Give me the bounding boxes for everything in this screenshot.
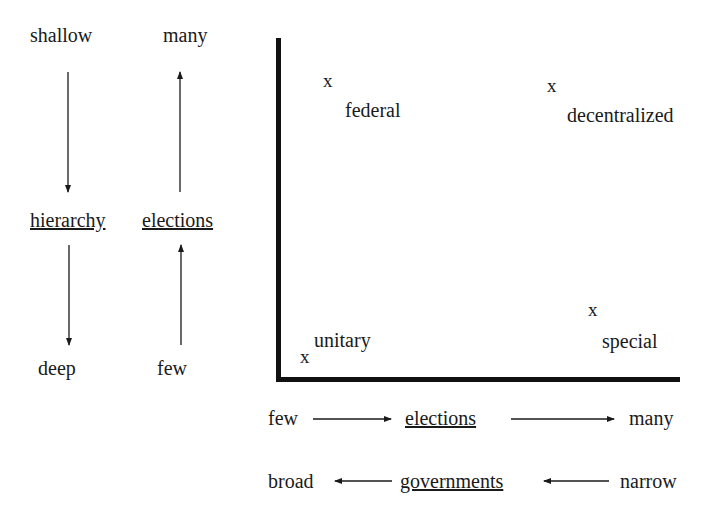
point-label: decentralized: [567, 104, 674, 126]
x-marker-icon: x: [323, 70, 333, 91]
elections-row: few elections many: [268, 407, 673, 430]
hierarchy-axis-label: hierarchy: [30, 209, 106, 232]
point-label: federal: [345, 99, 401, 121]
governments-row-center-label: governments: [400, 470, 504, 493]
governments-row-left-label: broad: [268, 470, 314, 492]
governance-diagram: shallow hierarchy deep many elections fe…: [0, 0, 718, 519]
elections-column: many elections few: [142, 24, 213, 379]
hierarchy-bottom-label: deep: [38, 357, 76, 380]
x-marker-icon: x: [300, 346, 310, 367]
governments-row: broad governments narrow: [268, 470, 677, 493]
elections-top-label: many: [163, 24, 207, 47]
x-marker-icon: x: [588, 299, 598, 320]
elections-axis-label: elections: [142, 209, 213, 231]
hierarchy-column: shallow hierarchy deep: [30, 24, 106, 380]
governments-row-right-label: narrow: [620, 470, 677, 492]
plot-point-federal: x federal: [323, 70, 401, 121]
elections-row-center-label: elections: [405, 407, 476, 429]
x-marker-icon: x: [547, 75, 557, 96]
plot-point-unitary: x unitary: [300, 329, 371, 367]
hierarchy-top-label: shallow: [30, 24, 93, 46]
elections-bottom-label: few: [157, 357, 188, 379]
point-label: special: [602, 330, 658, 353]
plot-point-decentralized: x decentralized: [547, 75, 674, 126]
point-label: unitary: [314, 329, 371, 352]
elections-row-left-label: few: [268, 407, 299, 429]
plot-point-special: x special: [588, 299, 658, 353]
elections-row-right-label: many: [629, 407, 673, 430]
